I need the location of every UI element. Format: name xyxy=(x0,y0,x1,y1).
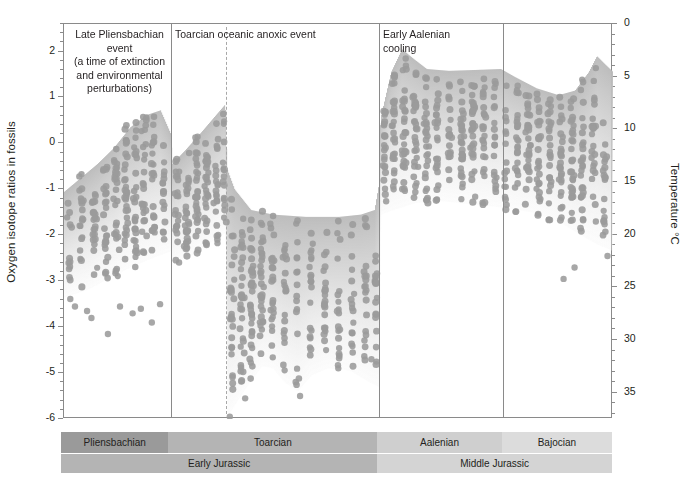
y-tick-label-left-neg4: -4 xyxy=(31,319,55,331)
annotation-line: (a time of extinction xyxy=(68,55,171,69)
y-tick-label-left-1: 1 xyxy=(31,89,55,101)
y-tick-label-left-2: 2 xyxy=(31,44,55,56)
timeline-stage-bajocian: Bajocian xyxy=(502,432,612,453)
timeline-stage-label: Pliensbachian xyxy=(84,437,146,448)
divider-oae-peak xyxy=(226,27,227,414)
timeline-stage-aalenian: Aalenian xyxy=(377,432,502,453)
annotation-line: perturbations) xyxy=(68,82,171,96)
y-axis-tick-left xyxy=(58,418,63,419)
y-tick-label-right-15: 15 xyxy=(624,174,648,186)
y-tick-label-left-neg2: -2 xyxy=(31,227,55,239)
annotation-line: Late Pliensbachian event xyxy=(68,28,171,55)
y-axis-title-left: Oxygen isotope ratios in fossils xyxy=(5,87,17,317)
annotation-line: cooling xyxy=(383,42,503,56)
divider-pliensbachian-toarcian xyxy=(171,24,172,417)
annotation-line: and environmental xyxy=(68,69,171,83)
y-tick-label-left-neg6: -6 xyxy=(31,411,55,423)
timeline-epoch-middle-jurassic: Middle Jurassic xyxy=(377,454,612,473)
y-tick-label-left-0: 0 xyxy=(31,135,55,147)
y-tick-label-right-35: 35 xyxy=(624,385,648,397)
annotation-toarcian-oceanic-anoxic-event: Toarcian oceanic anoxic event xyxy=(175,28,375,42)
timeline-stage-label: Aalenian xyxy=(420,437,459,448)
timeline-stage-toarcian: Toarcian xyxy=(168,432,377,453)
annotation-line: Early Aalenian xyxy=(383,28,503,42)
y-tick-label-right-5: 5 xyxy=(624,69,648,81)
plot-area: Late Pliensbachian event(a time of extin… xyxy=(63,23,612,418)
timeline-stage-label: Toarcian xyxy=(254,437,292,448)
y-tick-label-right-10: 10 xyxy=(624,121,648,133)
timeline-epoch-label: Early Jurassic xyxy=(188,458,250,469)
annotation-late-pliensbachian-event: Late Pliensbachian event(a time of extin… xyxy=(68,28,171,96)
y-tick-label-right-30: 30 xyxy=(624,332,648,344)
timeline-stage-label: Bajocian xyxy=(538,437,576,448)
annotation-early-aalenian-cooling: Early Aaleniancooling xyxy=(383,28,503,55)
y-axis-title-right: Temperature °C xyxy=(669,89,681,319)
y-tick-label-left-neg5: -5 xyxy=(31,365,55,377)
y-tick-label-right-25: 25 xyxy=(624,279,648,291)
y-tick-label-right-0: 0 xyxy=(624,16,648,28)
annotation-line: Toarcian oceanic anoxic event xyxy=(175,28,375,42)
timeline-epoch-label: Middle Jurassic xyxy=(460,458,529,469)
timeline-epoch-early-jurassic: Early Jurassic xyxy=(61,454,377,473)
y-tick-label-left-neg1: -1 xyxy=(31,181,55,193)
divider-aalenian-bajocian xyxy=(503,24,504,417)
divider-toarcian-aalenian xyxy=(379,24,380,417)
timeline-stage-row: PliensbachianToarcianAalenianBajocian xyxy=(61,432,612,453)
y-tick-label-right-20: 20 xyxy=(624,227,648,239)
geologic-timeline: PliensbachianToarcianAalenianBajocian Ea… xyxy=(61,432,612,473)
y-tick-label-left-neg3: -3 xyxy=(31,273,55,285)
timeline-epoch-row: Early JurassicMiddle Jurassic xyxy=(61,454,612,473)
timeline-stage-pliensbachian: Pliensbachian xyxy=(61,432,168,453)
